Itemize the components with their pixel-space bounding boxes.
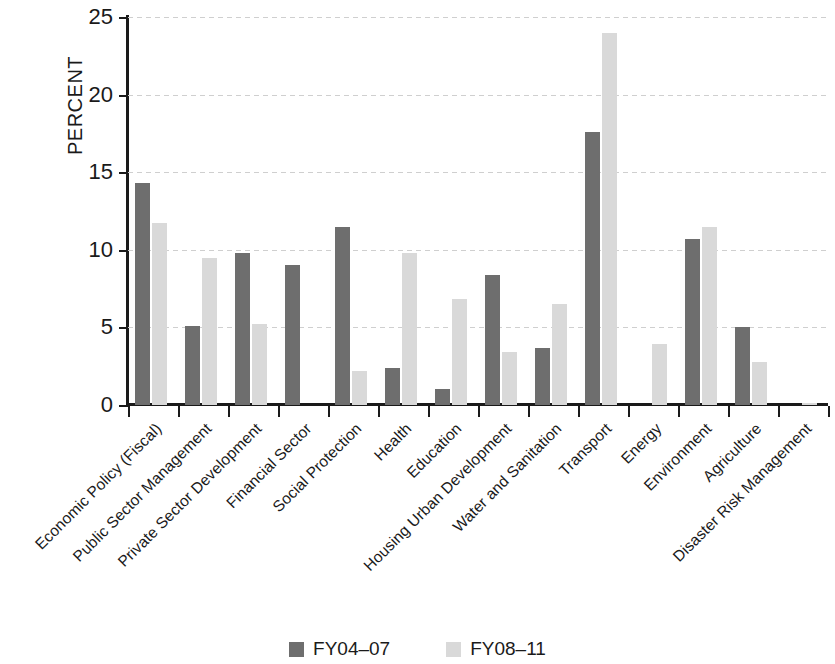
x-axis-tick-mark <box>178 406 180 417</box>
x-axis-tick-mark <box>678 406 680 417</box>
legend-item[interactable]: FY08–11 <box>446 638 546 660</box>
legend-label: FY08–11 <box>470 638 546 660</box>
x-axis-tick-mark <box>128 406 130 417</box>
chart-figure: PERCENT 0510152025 Economic Policy (Fisc… <box>0 0 835 664</box>
x-axis-tick-mark <box>328 406 330 417</box>
chart-legend: FY04–07FY08–11 <box>0 638 835 660</box>
x-axis-tick-mark <box>628 406 630 417</box>
x-axis-labels: Economic Policy (Fiscal)Public Sector Ma… <box>0 0 835 664</box>
x-axis-tick-mark <box>378 406 380 417</box>
x-axis-tick-mark <box>278 406 280 417</box>
legend-item[interactable]: FY04–07 <box>289 638 390 660</box>
x-axis-tick-mark <box>428 406 430 417</box>
x-axis-tick-mark <box>528 406 530 417</box>
x-axis-tick-mark <box>578 406 580 417</box>
x-axis-tick-mark <box>478 406 480 417</box>
legend-swatch-icon <box>446 642 461 657</box>
x-axis-tick-mark <box>778 406 780 417</box>
x-axis-tick-mark <box>228 406 230 417</box>
legend-label: FY04–07 <box>313 638 390 660</box>
x-axis-tick-mark <box>728 406 730 417</box>
x-axis-tick-mark <box>828 406 830 417</box>
legend-swatch-icon <box>289 642 304 657</box>
